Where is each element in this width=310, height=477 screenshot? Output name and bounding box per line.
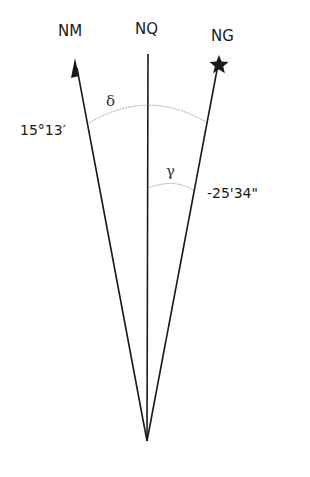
gamma-arc [148, 183, 193, 190]
nm-label: NM [58, 22, 82, 40]
delta-value: 15°13′ [20, 122, 66, 138]
ng-line [147, 70, 217, 441]
delta-symbol: δ [106, 92, 115, 110]
ng-star-icon [210, 55, 229, 73]
gamma-symbol: γ [166, 162, 175, 180]
gamma-value: -25'34" [207, 185, 258, 201]
nq-label: NQ [135, 20, 158, 38]
nm-line [77, 68, 147, 441]
ng-label: NG [211, 27, 234, 45]
declination-diagram: NM NQ NG δ γ 15°13′ -25'34" [0, 0, 310, 477]
nq-line [147, 54, 148, 441]
